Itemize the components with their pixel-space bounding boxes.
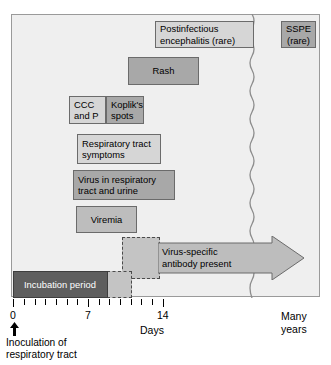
block-viremia: Viremia [76,206,137,233]
axis-tick [131,299,132,305]
block-ccc-and-p: CCC and P [69,96,106,124]
axis-right-label: Many years [281,310,307,335]
block-label-line1: Viremia [91,214,123,225]
block-label-line2: symptoms [82,149,125,160]
block-kopliks-spots: Koplik's spots [106,96,144,124]
block-label-line2: encephalitis (rare) [160,35,235,46]
block-postinfectious-encephalitis: Postinfectious encephalitis (rare) [155,21,254,48]
axis-title-days: Days [140,324,164,336]
block-label-line1: Rash [153,65,175,76]
incubation-period-dashed-extension [107,271,132,298]
axis-tick [152,299,153,305]
inoculation-label-line2: respiratory tract [6,349,77,361]
block-virus-specific-antibody: Virus-specific antibody present [162,240,274,276]
figure-canvas: Postinfectious encephalitis (rare) SSPE … [0,0,331,365]
inoculation-up-arrow-icon [10,322,19,336]
block-label-line1: Incubation period [24,279,96,290]
block-label-line1: SSPE [286,23,311,34]
block-label-line2: tract and urine [78,185,138,196]
block-label-line1: Koplik's [111,99,143,110]
block-virus-in-respiratory-tract-and-urine: Virus in respiratory tract and urine [73,170,175,200]
axis-tick [141,299,142,305]
block-label-line2: and P [74,110,99,121]
block-label-line1: Respiratory tract [82,138,151,149]
axis-tick-label-14: 14 [157,309,169,321]
block-label-line2: (rare) [287,35,310,46]
axis-right-label-line1: Many [281,310,307,323]
block-label-line1: Postinfectious [160,23,218,34]
axis-tick-label-0: 0 [10,309,16,321]
axis-tick [99,299,100,305]
inoculation-label-line1: Inoculation of [6,337,77,349]
axis-tick [35,299,36,305]
block-label-line2: antibody present [162,258,274,270]
axis-tick [24,299,25,305]
block-label-line1: Virus-specific [162,246,274,258]
block-label-line2: spots [111,110,133,121]
block-incubation-period: Incubation period [13,271,108,298]
axis-tick [56,299,57,305]
axis-tick-label-7: 7 [85,309,91,321]
block-sspe: SSPE (rare) [281,21,316,48]
axis-tick [109,299,110,305]
block-label-line1: Virus in respiratory [78,174,156,185]
axis-tick [45,299,46,305]
time-axis [11,299,320,307]
axis-tick [120,299,121,305]
axis-tick [77,299,78,305]
block-rash: Rash [128,57,199,85]
block-label-line1: CCC [74,99,94,110]
inoculation-label: Inoculation of respiratory tract [6,337,77,362]
axis-tick [67,299,68,305]
axis-right-label-line2: years [281,323,307,336]
axis-tick [163,299,164,307]
block-respiratory-tract-symptoms: Respiratory tract symptoms [77,134,161,164]
axis-tick [13,299,14,307]
axis-tick [88,299,89,307]
